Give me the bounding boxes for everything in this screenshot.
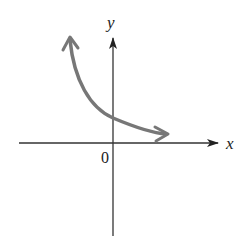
decay-curve [70, 40, 166, 134]
x-axis-label: x [226, 135, 234, 152]
y-axis-label: y [107, 14, 115, 31]
origin-label: 0 [101, 150, 109, 166]
coordinate-plane [0, 0, 244, 236]
